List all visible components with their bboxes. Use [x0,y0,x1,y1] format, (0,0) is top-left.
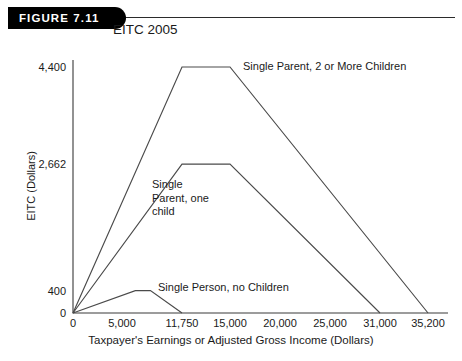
series-annotation-0: Single Parent, 2 or More Children [243,60,406,74]
x-tick-label-4: 20,000 [263,317,297,329]
x-tick-label-0: 0 [70,317,76,329]
x-tick-label-3: 15,000 [213,317,247,329]
x-tick-label-6: 31,000 [363,317,397,329]
series-line-0 [73,67,428,313]
y-tick-label-2: 2,662 [14,158,66,170]
y-tick-label-1: 400 [14,285,66,297]
y-tick-label-3: 4,400 [14,61,66,73]
x-tick-label-7: 35,200 [411,317,445,329]
eitc-chart: 04002,6624,400 05,00011,75015,00020,0002… [0,0,462,361]
x-axis-title: Taxpayer's Earnings or Adjusted Gross In… [0,334,462,346]
series-annotation-2: Single Person, no Children [158,281,289,295]
x-tick-label-1: 5,000 [108,317,136,329]
x-tick-label-5: 25,000 [313,317,347,329]
series-annotation-1: Single Parent, one child [152,178,209,219]
y-tick-label-0: 0 [14,307,66,319]
y-axis-title: EITC (Dollars) [25,131,37,241]
chart-plot-svg [0,0,462,361]
chart-series-group [73,67,428,313]
x-tick-label-2: 11,750 [166,317,199,329]
